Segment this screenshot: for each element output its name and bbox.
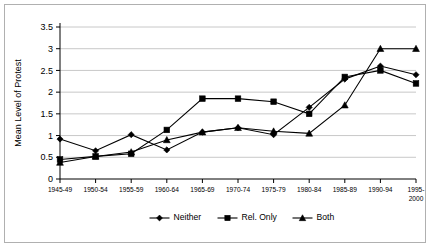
data-point-diamond: [157, 215, 163, 221]
x-tick-label: 1960-64: [155, 186, 180, 193]
legend-label: Rel. Only: [242, 212, 278, 222]
chart-frame: 00.511.522.533.5Mean Level of Protest194…: [4, 4, 426, 243]
line-chart: 00.511.522.533.5Mean Level of Protest194…: [5, 5, 425, 242]
series-both: [57, 45, 420, 165]
data-point-diamond: [413, 72, 419, 78]
x-axis-labels: 1945-491950-541955-591960-641965-691970-…: [48, 179, 425, 202]
chart-plot-area: 00.511.522.533.5Mean Level of Protest194…: [5, 5, 425, 242]
y-tick-label: 1.5: [40, 109, 53, 119]
chart-legend: NeitherRel. OnlyBoth: [150, 212, 335, 222]
y-tick-label: 1: [48, 131, 53, 141]
series-neither: [57, 63, 419, 154]
series-line: [60, 49, 416, 163]
x-tick-label: 1995-: [408, 186, 425, 193]
x-tick-label: 2000: [409, 195, 424, 202]
x-tick-label: 1975-79: [261, 186, 286, 193]
x-tick-label: 1970-74: [226, 186, 251, 193]
data-point-square: [378, 68, 384, 74]
x-tick-label: 1985-89: [333, 186, 358, 193]
data-point-square: [306, 111, 312, 117]
data-point-triangle: [341, 102, 348, 108]
data-point-diamond: [57, 136, 63, 142]
series-line: [60, 70, 416, 159]
x-tick-label: 1955-59: [119, 186, 144, 193]
data-point-square: [413, 81, 419, 87]
y-tick-label: 0: [48, 174, 53, 184]
x-tick-label: 1945-49: [48, 186, 73, 193]
y-tick-label: 0.5: [40, 152, 53, 162]
y-gridlines: 00.511.522.533.5: [40, 22, 416, 184]
x-tick-label: 1980-84: [297, 186, 322, 193]
data-point-diamond: [164, 147, 170, 153]
data-point-square: [342, 74, 348, 80]
data-point-square: [271, 99, 277, 105]
x-tick-label: 1965-69: [190, 186, 215, 193]
data-point-square: [235, 96, 241, 102]
data-point-diamond: [128, 132, 134, 138]
y-tick-label: 2: [48, 87, 53, 97]
data-point-square: [164, 127, 170, 133]
x-tick-label: 1950-54: [83, 186, 108, 193]
y-tick-label: 2.5: [40, 66, 53, 76]
series-line: [60, 66, 416, 151]
y-tick-label: 3: [48, 44, 53, 54]
y-axis-title: Mean Level of Protest: [13, 59, 23, 147]
data-point-square: [200, 96, 206, 102]
series-rel-only: [57, 68, 419, 163]
legend-label: Neither: [174, 212, 202, 222]
legend-label: Both: [317, 212, 335, 222]
data-point-square: [225, 215, 230, 220]
y-tick-label: 3.5: [40, 22, 53, 32]
x-tick-label: 1990-94: [368, 186, 393, 193]
